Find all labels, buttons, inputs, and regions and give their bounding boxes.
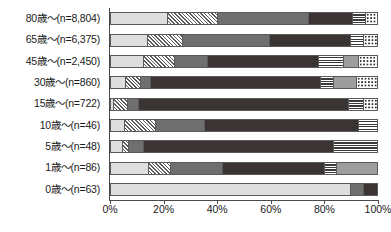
bar-segment-hatch	[144, 56, 176, 67]
bar-segment-medium	[129, 141, 144, 152]
bar-segment-hstripe	[334, 141, 377, 152]
bar-row	[110, 12, 378, 25]
bar-segment-dark	[270, 35, 351, 46]
bar-segment-dark	[223, 163, 324, 174]
bar-row	[110, 55, 378, 68]
bar-segment-light	[111, 56, 144, 67]
bar-row	[110, 183, 378, 196]
y-axis-label: 15歳～(n=722)	[34, 93, 100, 114]
bar-segment-light	[111, 184, 351, 195]
bar-segment-gray	[337, 163, 377, 174]
y-axis-label: 65歳～(n=6,375)	[26, 29, 100, 50]
bar-row	[110, 76, 378, 89]
y-axis-label: 10歳～(n=46)	[40, 115, 100, 136]
bar-segment-hstripe	[319, 56, 344, 67]
bar-segment-light	[111, 77, 126, 88]
bar-segment-hatch	[168, 13, 218, 24]
bar-segment-dark	[309, 13, 353, 24]
bar-segment-hatch	[148, 35, 184, 46]
y-axis-label: 45歳～(n=2,450)	[26, 51, 100, 72]
bar-segment-light	[111, 35, 148, 46]
y-axis-label: 30歳～(n=860)	[34, 72, 100, 93]
bar-segment-medium	[218, 13, 309, 24]
bar-segment-hstripe	[353, 13, 366, 24]
plot-area	[110, 8, 378, 200]
bar-segment-dots	[359, 56, 377, 67]
bar-segment-light	[111, 141, 123, 152]
bar-row	[110, 119, 378, 132]
bar-segment-hstripe	[321, 77, 334, 88]
bar-segment-hatch	[126, 77, 141, 88]
bar-segment-dark	[151, 77, 322, 88]
y-axis-label: 1歳～(n=86)	[45, 157, 100, 178]
x-axis-tick-label: 40%	[207, 203, 228, 215]
bar-segment-dots	[364, 35, 377, 46]
x-axis-line	[109, 200, 379, 201]
bar-segment-hatch	[125, 120, 156, 131]
bar-segment-medium	[141, 77, 151, 88]
bar-segment-gray	[344, 56, 359, 67]
y-axis-label: 80歳～(n=8,804)	[26, 8, 100, 29]
bar-segment-hstripe	[349, 99, 364, 110]
bar-segment-dark	[208, 56, 319, 67]
x-axis-tick-label: 60%	[260, 203, 281, 215]
bar-segment-hatch	[114, 99, 128, 110]
bar-segment-hstripe	[359, 120, 377, 131]
x-axis-tick-label: 0%	[102, 203, 117, 215]
bar-segment-dark	[205, 120, 359, 131]
bar-segment-medium	[183, 35, 269, 46]
bar-segment-gray	[334, 77, 357, 88]
bar-segment-light	[111, 163, 149, 174]
bar-segment-medium	[128, 99, 139, 110]
bar-segment-dark	[139, 99, 349, 110]
y-axis-category-labels: 80歳～(n=8,804)65歳～(n=6,375)45歳～(n=2,450)3…	[0, 8, 104, 200]
bar-segment-dots	[357, 77, 377, 88]
x-axis-tick-labels: 0%20%40%60%80%100%	[110, 203, 378, 219]
x-axis-tick-label: 100%	[365, 203, 391, 215]
bar-row	[110, 162, 378, 175]
bar-row	[110, 34, 378, 47]
bar-segment-hatch	[149, 163, 171, 174]
x-axis-tick-label: 20%	[153, 203, 174, 215]
bar-segment-medium	[351, 184, 364, 195]
bar-segment-hstripe	[325, 163, 337, 174]
bar-row	[110, 98, 378, 111]
bar-segment-dots	[366, 13, 377, 24]
bar-segment-medium	[175, 56, 208, 67]
y-axis-label: 0歳～(n=63)	[45, 179, 100, 200]
bar-segment-medium	[171, 163, 224, 174]
bar-segment-light	[111, 120, 125, 131]
bar-segment-medium	[156, 120, 206, 131]
bar-segment-dark	[364, 184, 377, 195]
bar-segment-dots	[364, 99, 377, 110]
bar-segment-hstripe	[351, 35, 364, 46]
x-axis-tick-label: 80%	[314, 203, 335, 215]
bar-segment-light	[111, 13, 168, 24]
bar-segment-dark	[144, 141, 334, 152]
y-axis-label: 5歳～(n=48)	[45, 136, 100, 157]
bar-row	[110, 140, 378, 153]
